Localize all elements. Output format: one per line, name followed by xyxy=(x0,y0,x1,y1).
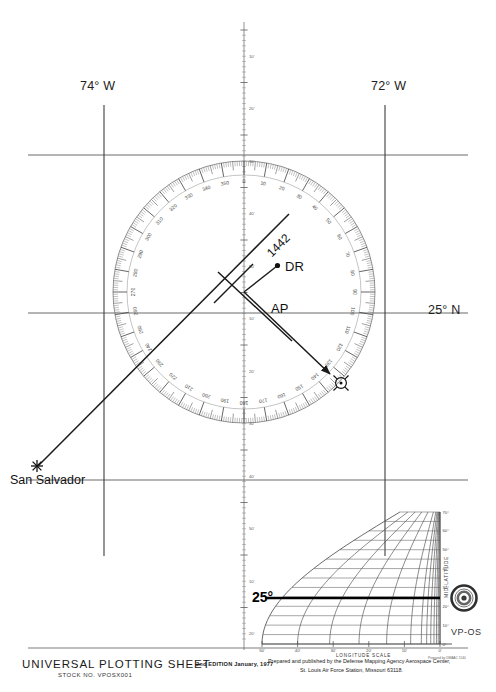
compass-degree-label: 210 xyxy=(183,383,193,392)
nomogram-x-tick-label: 10' xyxy=(402,648,408,653)
san-salvador-star-icon xyxy=(31,460,43,472)
compass-degree-label: 70 xyxy=(344,251,352,258)
sun-symbol xyxy=(334,376,349,391)
compass-degree-label: 330 xyxy=(184,191,194,200)
navigation-plot xyxy=(31,214,349,472)
meridian-minute-label: 20' xyxy=(249,631,255,636)
footer-edition: 2nd EDITION January, 1977 xyxy=(196,661,273,667)
compass-degree-label: 130 xyxy=(324,358,334,368)
compass-degree-label: 220 xyxy=(168,372,178,382)
label-nomogram-latitude: 25° xyxy=(252,589,273,605)
nomogram-x-tick-label: 0' xyxy=(438,648,441,653)
nomogram-latitude-lines xyxy=(262,512,440,644)
nomogram-x-tick-label: 50' xyxy=(259,648,265,653)
footer-stock-number: STOCK NO. VPOSX001 xyxy=(58,672,132,678)
azimuth-line xyxy=(38,214,289,466)
compass-degree-label: 200 xyxy=(201,392,211,401)
nomogram-y-tick-label: 10° xyxy=(443,623,450,628)
sheet-footer: UNIVERSAL PLOTTING SHEET STOCK NO. VPOSX… xyxy=(0,655,496,692)
nomogram-y-tick-label: 50° xyxy=(443,547,450,552)
compass-degree-label: 260 xyxy=(131,306,138,315)
nomogram-y-tick-label: 20° xyxy=(443,604,450,609)
compass-degree-label: 340 xyxy=(201,184,211,193)
label-parallel-25n: 25° N xyxy=(428,303,460,317)
compass-degree-label: 170 xyxy=(258,397,267,404)
compass-degree-label: 300 xyxy=(143,231,152,241)
label-mid-latitude-axis: MID-LATITUDE xyxy=(443,556,449,598)
compass-degree-label: 90 xyxy=(352,289,358,295)
compass-degree-label: 0 xyxy=(243,178,246,184)
meridian-minute-label: 20' xyxy=(249,369,255,374)
compass-degree-label: 250 xyxy=(136,325,145,335)
label-sheet-code: VP-OS xyxy=(451,627,482,637)
compass-degree-label: 60 xyxy=(336,233,344,241)
compass-degree-label: 190 xyxy=(220,397,229,404)
compass-degree-label: 350 xyxy=(220,179,229,186)
label-meridian-74w: 74° W xyxy=(80,79,115,93)
compass-degree-label: 10 xyxy=(260,180,267,187)
label-meridian-72w: 72° W xyxy=(371,79,406,93)
compass-degree-label: 40 xyxy=(311,203,319,211)
compass-degree-label: 110 xyxy=(344,325,352,335)
compass-degree-label: 310 xyxy=(154,216,164,226)
compass-degree-label: 50 xyxy=(325,217,333,225)
meridian-minute-labels: 10'20'30'40'50'10'20'30'40'50'10'20' xyxy=(249,54,255,637)
dma-seal-icon xyxy=(452,586,477,611)
compass-degree-label: 280 xyxy=(131,268,138,277)
compass-degree-label: 100 xyxy=(349,307,356,316)
footer-publisher-line2: St. Louis Air Force Station, Missouri 63… xyxy=(300,667,403,673)
meridian-minute-label: 20' xyxy=(249,106,255,111)
meridian-minute-label: 30' xyxy=(249,421,255,426)
compass-degree-label: 80 xyxy=(350,270,357,277)
meridian-minute-label: 40' xyxy=(249,211,255,216)
dr-vector xyxy=(244,266,277,292)
compass-degree-label: 160 xyxy=(277,392,287,401)
nomogram-y-tick-label: 60° xyxy=(443,528,450,533)
meridian-minute-label: 40' xyxy=(249,474,255,479)
meridian-minute-label: 50' xyxy=(249,526,255,531)
compass-degree-label: 270 xyxy=(130,288,136,297)
compass-degree-label: 150 xyxy=(294,383,304,392)
compass-degree-label: 240 xyxy=(143,342,152,352)
meridian-minute-label: 10' xyxy=(249,54,255,59)
compass-degree-label: 30 xyxy=(295,192,303,200)
compass-degree-label: 140 xyxy=(310,372,320,382)
graticule xyxy=(28,22,468,650)
meridian-minute-label: 10' xyxy=(249,316,255,321)
meridian-minute-label: 10' xyxy=(249,579,255,584)
label-san-salvador: San Salvador xyxy=(10,473,85,487)
compass-degree-label: 20 xyxy=(278,184,285,192)
dr-point xyxy=(275,263,280,268)
footer-title: UNIVERSAL PLOTTING SHEET xyxy=(22,658,211,670)
nomogram-y-tick-label: 0° xyxy=(443,642,447,647)
compass-degree-label: 320 xyxy=(168,202,178,212)
label-dr: DR xyxy=(285,259,304,274)
label-ap: AP xyxy=(271,301,288,316)
compass-degree-label: 120 xyxy=(335,342,344,352)
nomogram-x-tick-label: 40' xyxy=(295,648,301,653)
footer-publisher-line1: Prepared and published by the Defense Ma… xyxy=(268,658,450,664)
compass-degree-label: 180 xyxy=(240,400,249,406)
compass-degree-label: 230 xyxy=(154,358,164,368)
nomogram-y-tick-label: 70° xyxy=(443,510,450,515)
plotting-sheet-canvas: 10'20'30'40'50'10'20'30'40'50'10'20' 010… xyxy=(0,0,496,692)
compass-degree-label: 290 xyxy=(136,249,145,259)
